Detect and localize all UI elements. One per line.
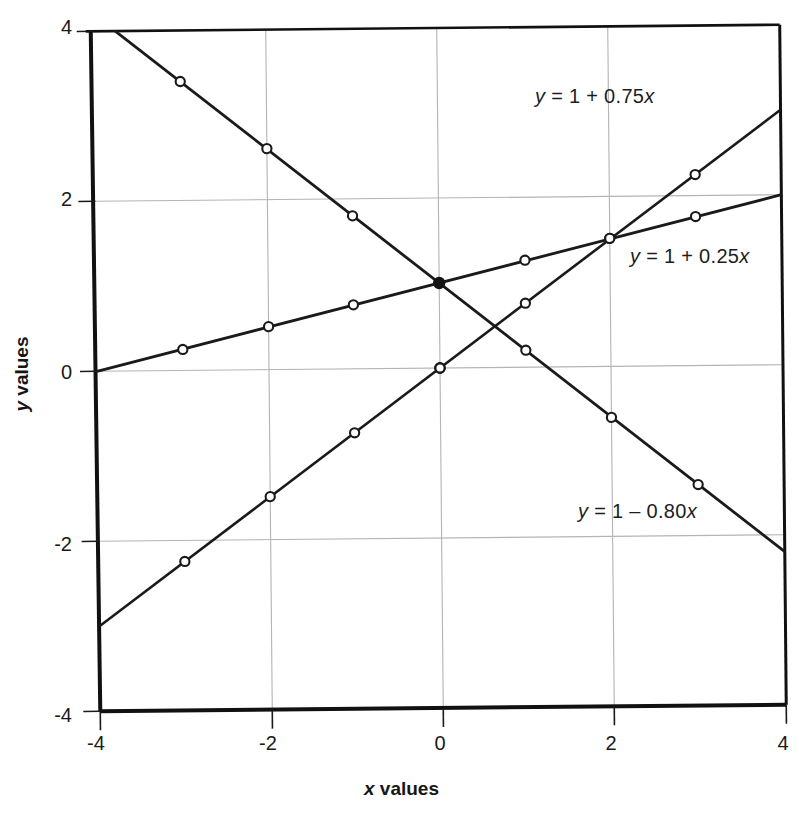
y-tick-label: 0 <box>36 362 72 382</box>
y-axis-title-rest: values <box>11 336 32 400</box>
x-axis-title-rest: values <box>375 778 439 799</box>
data-point <box>180 557 189 566</box>
chart-plot-area <box>0 0 803 826</box>
data-point <box>691 170 700 179</box>
x-tick-label: -4 <box>87 733 105 753</box>
x-tick-label: 4 <box>777 733 788 753</box>
annotation-variable-x: x <box>687 500 697 522</box>
x-axis-title: x values <box>0 778 803 800</box>
y-axis-title: y values <box>11 336 33 411</box>
x-tick-label: 2 <box>605 733 616 753</box>
data-point <box>348 211 357 220</box>
data-point <box>520 256 529 265</box>
annotation-variable-y: y <box>535 85 545 107</box>
data-point <box>693 480 702 489</box>
data-point <box>262 144 271 153</box>
annotation-body: = 1 – 0.80 <box>588 500 686 522</box>
annotation-variable-x: x <box>739 245 749 267</box>
frame-top <box>86 25 780 32</box>
y-axis-title-variable: y <box>11 401 32 412</box>
x-tick-label: -2 <box>259 733 277 753</box>
data-point <box>435 363 444 372</box>
annotation-variable-y: y <box>578 500 588 522</box>
data-point <box>349 300 358 309</box>
annotation-variable-x: x <box>644 85 654 107</box>
y-tick-label: 2 <box>36 189 72 209</box>
x-tick-label: 0 <box>434 733 445 753</box>
data-point <box>521 346 530 355</box>
data-point <box>264 322 273 331</box>
annotation-body: = 1 + 0.75 <box>545 85 644 107</box>
data-point <box>350 428 359 437</box>
y-tick-label: -4 <box>30 705 72 725</box>
data-point <box>178 345 187 354</box>
series-annotation-025: y = 1 + 0.25x <box>630 245 750 268</box>
data-point <box>607 413 616 422</box>
annotation-body: = 1 + 0.25 <box>640 245 739 267</box>
data-point <box>691 212 700 221</box>
intersection-point <box>434 278 444 288</box>
data-point <box>176 77 185 86</box>
y-tick-label: -2 <box>30 534 72 554</box>
series-annotation-080: y = 1 – 0.80x <box>578 500 697 523</box>
chart-figure: 4 2 0 -2 -4 -4 -2 0 2 4 x values y value… <box>0 0 803 826</box>
series-annotation-075: y = 1 + 0.75x <box>535 85 655 108</box>
axis-ticks <box>77 25 787 731</box>
data-point <box>266 492 275 501</box>
y-tick-label: 4 <box>36 17 72 37</box>
data-point <box>521 299 530 308</box>
data-point <box>605 234 614 243</box>
annotation-variable-y: y <box>630 245 640 267</box>
x-axis-title-variable: x <box>364 778 375 799</box>
